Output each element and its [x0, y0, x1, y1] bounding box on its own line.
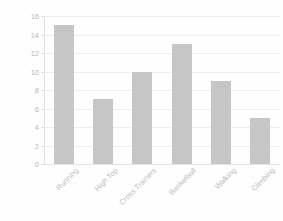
y-axis-tick-label: 6 — [35, 104, 39, 113]
bar[interactable] — [132, 72, 152, 165]
x-axis-tick-label: Climbing — [250, 166, 277, 193]
bar[interactable] — [172, 44, 192, 164]
y-axis-tick-label: 4 — [35, 123, 39, 132]
bar[interactable] — [211, 81, 231, 164]
y-axis-tick-label: 16 — [31, 12, 39, 21]
bar[interactable] — [93, 99, 113, 164]
y-axis-tick-label: 0 — [35, 160, 39, 169]
bar-series — [44, 16, 280, 164]
x-axis-tick-label: Running — [54, 166, 80, 192]
y-axis-tick-mark — [41, 164, 44, 165]
y-axis-tick-label: 8 — [35, 86, 39, 95]
x-axis-tick-label: Basketball — [167, 166, 198, 197]
y-axis-tick-label: 12 — [31, 49, 39, 58]
x-axis-tick-label: Walking — [213, 166, 238, 191]
bar[interactable] — [54, 25, 74, 164]
y-axis-tick-label: 10 — [31, 67, 39, 76]
x-axis-tick-labels: RunningHigh TopCross TrainersBasketballW… — [44, 166, 280, 221]
y-axis-tick-label: 2 — [35, 141, 39, 150]
plot-area: 1614121086420 — [44, 16, 280, 164]
bar-chart: Count 1614121086420 RunningHigh TopCross… — [0, 0, 283, 221]
bar[interactable] — [250, 118, 270, 164]
x-axis-tick-label: High Top — [93, 166, 120, 193]
gridline — [44, 164, 280, 165]
x-axis-tick-label: Cross Trainers — [118, 166, 159, 207]
y-axis-tick-label: 14 — [31, 30, 39, 39]
y-axis-title: Count — [2, 58, 16, 122]
